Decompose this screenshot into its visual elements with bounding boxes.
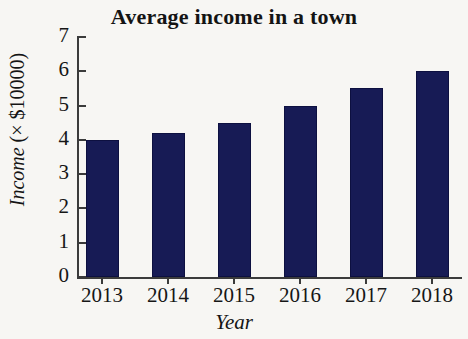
x-tick-label: 2016 bbox=[265, 283, 335, 308]
x-tick-label: 2018 bbox=[397, 283, 467, 308]
y-tick-label: 3 bbox=[45, 160, 69, 185]
y-axis-label-italic: Income bbox=[6, 147, 28, 206]
bar-2017 bbox=[350, 88, 383, 277]
y-tick-label: 2 bbox=[45, 194, 69, 219]
chart-title: Average income in a town bbox=[0, 4, 468, 30]
y-axis-label: Income (× $10000) bbox=[6, 45, 29, 215]
x-axis-label: Year bbox=[0, 310, 468, 335]
x-tick-label: 2014 bbox=[133, 283, 203, 308]
bar-2016 bbox=[284, 106, 317, 277]
y-tick-label: 0 bbox=[45, 263, 69, 288]
bar-2018 bbox=[416, 71, 449, 277]
y-tick-mark bbox=[77, 70, 86, 72]
chart-figure: Average income in a town Income (× $1000… bbox=[0, 0, 468, 339]
y-tick-label: 1 bbox=[45, 229, 69, 254]
y-tick-mark bbox=[77, 36, 86, 38]
x-tick-label: 2017 bbox=[331, 283, 401, 308]
x-tick-label: 2015 bbox=[199, 283, 269, 308]
y-tick-mark bbox=[77, 105, 86, 107]
x-tick-label: 2013 bbox=[67, 283, 137, 308]
y-tick-label: 4 bbox=[45, 126, 69, 151]
y-tick-label: 5 bbox=[45, 92, 69, 117]
y-tick-label: 7 bbox=[45, 23, 69, 48]
y-axis-label-upright: (× $10000) bbox=[6, 53, 28, 148]
bar-2015 bbox=[218, 123, 251, 277]
bar-2013 bbox=[86, 140, 119, 277]
bar-2014 bbox=[152, 133, 185, 277]
x-axis-line bbox=[77, 277, 462, 279]
y-tick-label: 6 bbox=[45, 57, 69, 82]
